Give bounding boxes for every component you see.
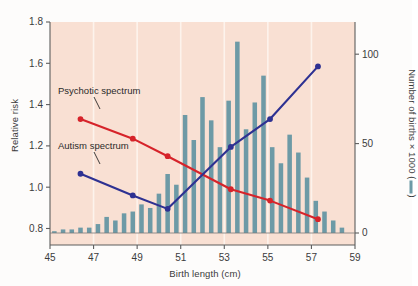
bar [104, 217, 109, 233]
data-point [315, 216, 321, 222]
data-point [78, 171, 84, 177]
y-axis-right-tick-label: 100 [362, 49, 379, 60]
y-axis-left-tick-label: 1.2 [29, 140, 43, 151]
psychotic-spectrum-label: Psychotic spectrum [58, 85, 140, 96]
bar [296, 153, 301, 233]
data-point [165, 153, 171, 159]
y-axis-right-tick-label: 50 [362, 138, 374, 149]
y-axis-left-tick-label: 1.4 [29, 99, 43, 110]
bar [122, 213, 127, 233]
x-axis-tick-label: 51 [175, 252, 187, 263]
bar [331, 220, 336, 233]
bar [270, 147, 275, 233]
bar [279, 163, 284, 233]
y-axis-right-tick-label: 0 [362, 227, 368, 238]
bar [340, 228, 345, 233]
data-point [228, 144, 234, 150]
bar [78, 228, 83, 233]
bar [209, 120, 214, 233]
bar [235, 42, 240, 233]
bar [165, 174, 170, 233]
y-axis-left-tick-label: 1.6 [29, 58, 43, 69]
bar [87, 228, 92, 233]
y-axis-right-title: Number of births × 1000 () [407, 59, 418, 209]
y-axis-right-title-suffix: ) [407, 195, 418, 198]
bar [148, 208, 153, 233]
bar [226, 101, 231, 233]
data-point [267, 116, 273, 122]
autism-spectrum-label: Autism spectrum [58, 140, 129, 151]
bar [174, 185, 179, 233]
bar [244, 129, 249, 233]
bar [192, 140, 197, 233]
data-point [130, 136, 136, 142]
bar [183, 115, 188, 233]
x-axis-tick-label: 59 [349, 252, 361, 263]
bar [322, 212, 327, 233]
x-axis-tick-label: 47 [88, 252, 100, 263]
x-axis-tick-label: 57 [306, 252, 318, 263]
bar-legend-swatch [410, 181, 413, 194]
y-axis-left-tick-label: 0.8 [29, 223, 43, 234]
bar [287, 135, 292, 233]
bar [61, 229, 66, 233]
x-axis-tick-label: 45 [44, 252, 56, 263]
y-axis-left-title: Relative risk [9, 91, 20, 161]
bar [305, 178, 310, 233]
x-axis-title: Birth length (cm) [135, 268, 275, 279]
bar [113, 220, 118, 233]
x-axis-tick-label: 53 [219, 252, 231, 263]
data-point [315, 63, 321, 69]
y-axis-left-tick-label: 1.0 [29, 182, 43, 193]
y-axis-left-tick-label: 1.8 [29, 16, 43, 27]
bar [200, 97, 205, 233]
bar [253, 102, 258, 233]
data-point [130, 193, 136, 199]
bar [70, 229, 75, 233]
x-axis-tick-label: 49 [132, 252, 144, 263]
data-point [78, 116, 84, 122]
bar [261, 76, 266, 233]
data-point [267, 198, 273, 204]
data-point [228, 186, 234, 192]
x-axis-tick-label: 55 [262, 252, 274, 263]
bar [96, 224, 101, 233]
bar [139, 204, 144, 233]
y-axis-right-title-text: Number of births × 1000 ( [407, 69, 418, 179]
bar [157, 194, 162, 233]
data-point [165, 206, 171, 212]
bar [131, 212, 136, 233]
